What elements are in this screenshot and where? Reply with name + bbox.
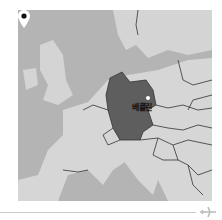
- location-dot: [146, 96, 150, 100]
- city-label: 베를린: [132, 101, 152, 112]
- ireland-land: [23, 68, 38, 90]
- map-shapes: [18, 10, 212, 201]
- timeline-divider: [0, 212, 196, 213]
- map-pin-icon[interactable]: [18, 10, 30, 28]
- scandinavia-land: [113, 10, 212, 58]
- airplane-icon[interactable]: [200, 206, 216, 218]
- uk-land: [40, 40, 73, 105]
- map-view[interactable]: 베를린: [18, 10, 212, 201]
